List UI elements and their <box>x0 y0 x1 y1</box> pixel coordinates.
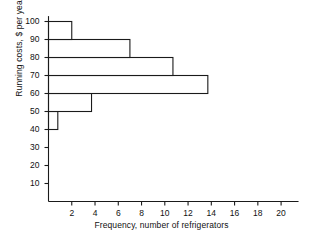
bar <box>49 58 173 76</box>
x-tick-label: 2 <box>62 208 82 218</box>
x-tick-label: 10 <box>155 208 175 218</box>
x-tick-label: 20 <box>271 208 291 218</box>
bar <box>49 94 92 112</box>
y-tick-label: 10 <box>16 178 40 188</box>
x-tick-label: 8 <box>132 208 152 218</box>
x-tick-label: 6 <box>108 208 128 218</box>
bar <box>49 40 130 58</box>
plot-area <box>0 0 323 240</box>
y-tick-label: 30 <box>16 142 40 152</box>
x-tick-label: 16 <box>225 208 245 218</box>
x-tick-label: 12 <box>178 208 198 218</box>
x-axis-title: Frequency, number of refrigerators <box>0 220 323 230</box>
y-axis-title-container: Running costs, $ per year <box>14 0 28 137</box>
x-tick-label: 4 <box>85 208 105 218</box>
bar <box>49 76 208 94</box>
y-tick-label: 20 <box>16 160 40 170</box>
x-tick-label: 14 <box>201 208 221 218</box>
y-axis-title: Running costs, $ per year <box>14 0 24 137</box>
bar <box>49 112 58 130</box>
bars-group <box>49 22 208 130</box>
histogram-chart: 102030405060708090100 2468101214161820 R… <box>0 0 323 240</box>
x-tick-label: 18 <box>248 208 268 218</box>
bar <box>49 22 72 40</box>
